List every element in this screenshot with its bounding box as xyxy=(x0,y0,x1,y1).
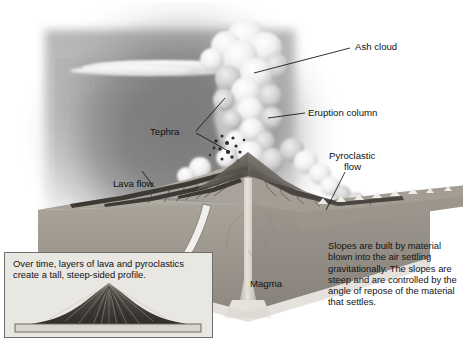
label-pyroclastic-flow-line1: Pyroclastic xyxy=(329,150,375,161)
label-magma: Magma xyxy=(250,278,282,289)
label-lava-flow: Lava flow xyxy=(113,178,154,189)
slopes-note-text: Slopes are built by material blown into … xyxy=(328,240,462,308)
label-eruption-column: Eruption column xyxy=(308,107,377,118)
label-ash-cloud: Ash cloud xyxy=(355,41,397,52)
left-margin xyxy=(0,0,2,354)
label-tephra: Tephra xyxy=(150,126,179,137)
inset-panel: Over time, layers of lava and pyroclasti… xyxy=(4,252,213,338)
label-pyroclastic-flow-line2: flow xyxy=(344,161,361,172)
top-margin xyxy=(0,0,467,2)
figure-canvas: Ash cloud Eruption column Tephra Pyrocla… xyxy=(0,0,467,354)
inset-profile-svg xyxy=(5,253,211,337)
right-margin xyxy=(463,0,467,354)
